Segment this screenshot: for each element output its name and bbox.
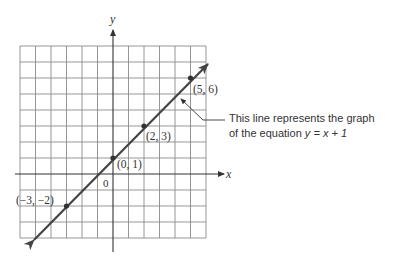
graph-line [34, 64, 208, 240]
label-point-0-1: (0, 1) [117, 158, 142, 171]
annotation-line1: This line represents the graph [229, 112, 375, 124]
annotation-leader [181, 99, 225, 120]
point-2-3 [141, 123, 146, 128]
label-point-5-6: (5, 6) [193, 83, 218, 96]
annotation-line2-prefix: of the equation [229, 127, 305, 139]
label-point-2-3: (2, 3) [146, 130, 171, 143]
point-neg3-neg2 [64, 203, 69, 208]
graph-figure: x y 0 (5, 6) (2, 3) (0, 1) (−3, −2) This… [0, 0, 395, 262]
x-axis-label: x [225, 167, 232, 181]
point-5-6 [188, 75, 193, 80]
y-axis-label: y [109, 12, 116, 26]
origin-label: 0 [103, 177, 109, 189]
label-point-neg3-neg2: (−3, −2) [16, 194, 54, 207]
annotation-line2: of the equation y = x + 1 [229, 127, 347, 139]
annotation-equation: y = x + 1 [304, 127, 347, 139]
point-0-1 [110, 155, 115, 160]
